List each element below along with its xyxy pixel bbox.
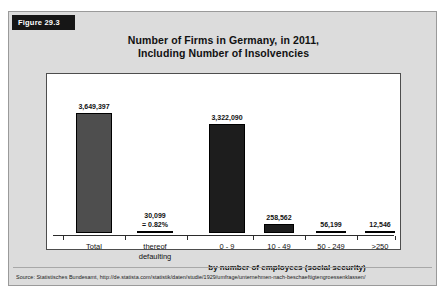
plot-panel: 3,649,39730,099= 0.82%3,322,090258,56256… xyxy=(46,73,401,250)
chart-title-line-2: Including Number of Insolvencies xyxy=(9,47,438,60)
category-label: >250 xyxy=(335,242,425,252)
axis-tick xyxy=(253,236,254,240)
axis-tick xyxy=(305,236,306,240)
source-divider xyxy=(13,267,432,268)
bar-rect[interactable] xyxy=(76,113,112,233)
axis-tick xyxy=(357,236,358,240)
bar-value-label: 3,649,397 xyxy=(49,103,139,111)
bar-rect[interactable] xyxy=(137,231,173,233)
chart-title-line-1: Number of Firms in Germany, in 2011, xyxy=(9,34,438,47)
plot-area: 3,649,39730,099= 0.82%3,322,090258,56256… xyxy=(47,74,400,249)
figure-number-badge: Figure 29.3 xyxy=(12,15,75,30)
axis-tick xyxy=(187,236,188,240)
axis-tick xyxy=(63,236,64,240)
category-label-line-2: defaulting xyxy=(110,252,200,262)
figure-container: Figure 29.3 Number of Firms in Germany, … xyxy=(8,11,437,286)
bar-group: 12,546 xyxy=(335,221,425,233)
axis-tick xyxy=(395,236,396,240)
axis-tick xyxy=(125,236,126,240)
source-citation: Source: Statistisches Bundesamt, http://… xyxy=(16,274,431,280)
bar-value-label: 3,322,090 xyxy=(182,114,272,122)
chart-title: Number of Firms in Germany, in 2011, Inc… xyxy=(9,34,438,59)
bar-rect[interactable] xyxy=(365,231,395,233)
bar-value-label: 12,546 xyxy=(335,221,425,229)
x-axis-line xyxy=(53,235,394,236)
